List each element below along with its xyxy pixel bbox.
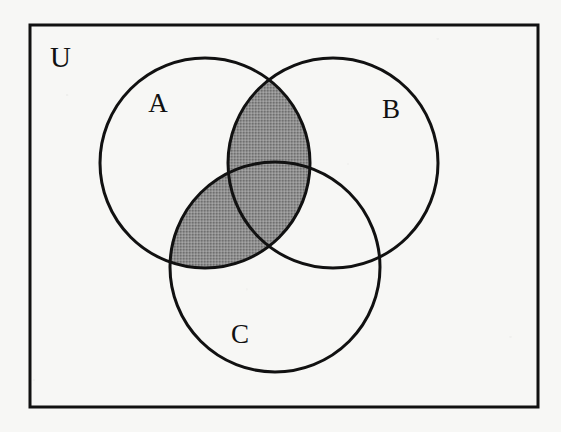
set-label-b: B bbox=[382, 94, 400, 124]
venn-diagram-canvas: U A B C bbox=[0, 0, 561, 432]
set-label-a: A bbox=[148, 88, 168, 118]
set-label-c: C bbox=[231, 319, 249, 349]
shaded-region-a-intersect-b-union-c bbox=[0, 0, 561, 432]
universe-label: U bbox=[50, 41, 71, 73]
diagram-page: U A B C bbox=[0, 0, 561, 432]
